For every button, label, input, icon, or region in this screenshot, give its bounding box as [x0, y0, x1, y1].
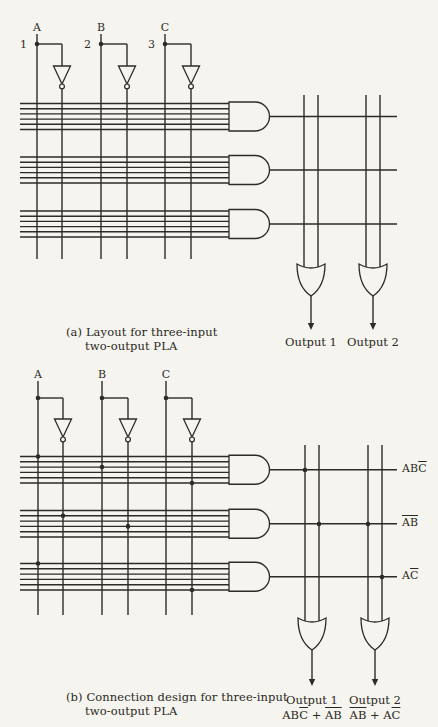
output-label: Output 1: [285, 335, 337, 349]
pla-figure-page: A1B2C3ABC (a) Layout for three-input two…: [0, 0, 438, 727]
overbar-term: C: [410, 569, 418, 582]
term: +: [308, 708, 325, 722]
caption-b-line1: (b) Connection design for three-input: [66, 691, 288, 705]
overbar-term: C: [392, 708, 401, 722]
output-label: Output 2: [347, 335, 399, 349]
output-formula: ABC + AB: [282, 708, 342, 722]
caption-a-line2: two-output PLA: [85, 340, 218, 354]
overbar-term: AB: [325, 708, 342, 722]
overbar-term: C: [299, 708, 308, 722]
caption-b: (b) Connection design for three-input tw…: [66, 691, 288, 718]
output-label: Output 2: [349, 693, 401, 707]
term: AB: [402, 462, 418, 475]
overbar-term: AB: [402, 516, 418, 529]
caption-b-line2: two-output PLA: [85, 705, 288, 719]
text-overlay: (a) Layout for three-input two-output PL…: [0, 0, 438, 727]
term: + A: [366, 708, 391, 722]
output-formula: AB + AC: [350, 708, 401, 722]
product-term-label: AB: [402, 516, 418, 529]
product-term-label: AC: [402, 569, 418, 582]
product-term-label: ABC: [402, 462, 427, 475]
term: A: [402, 569, 410, 582]
caption-a-line1: (a) Layout for three-input: [66, 326, 218, 340]
overbar-term: AB: [350, 708, 367, 722]
overbar-term: C: [418, 462, 426, 475]
output-label: Output 1: [286, 693, 338, 707]
caption-a: (a) Layout for three-input two-output PL…: [66, 326, 218, 353]
term: AB: [282, 708, 299, 722]
